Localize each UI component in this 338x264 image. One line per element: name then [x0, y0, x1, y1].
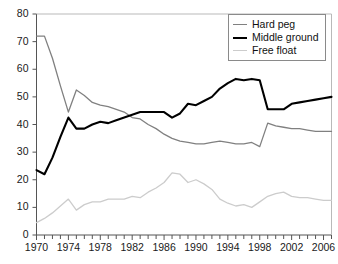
- y-axis-tick-label: 40: [3, 119, 29, 129]
- y-axis-tick-label: 0: [3, 229, 29, 239]
- y-axis-tick-label: 30: [3, 146, 29, 156]
- legend-item: Middle ground: [233, 31, 319, 44]
- legend-item-label: Hard peg: [252, 19, 295, 30]
- y-axis-tick-label: 60: [3, 63, 29, 73]
- legend-line-swatch-icon: [233, 37, 247, 39]
- series-group: [37, 36, 332, 222]
- y-axis-tick-label: 10: [3, 201, 29, 211]
- line-chart: 80706050403020100 1970197419781982198619…: [0, 0, 338, 264]
- y-axis-tick-label: 50: [3, 91, 29, 101]
- legend-line-swatch-icon: [233, 50, 247, 51]
- y-axis-tick-label: 20: [3, 174, 29, 184]
- legend-item-label: Middle ground: [252, 32, 319, 43]
- chart-legend: Hard pegMiddle groundFree float: [228, 14, 326, 61]
- legend-item: Free float: [233, 44, 319, 57]
- legend-line-swatch-icon: [233, 24, 247, 25]
- y-axis-tick-label: 80: [3, 8, 29, 18]
- y-axis-tick-label: 70: [3, 36, 29, 46]
- legend-item: Hard peg: [233, 18, 319, 31]
- legend-item-label: Free float: [252, 45, 296, 56]
- series-line-free-float: [37, 173, 332, 223]
- x-axis-tick-label: 2006: [304, 242, 338, 252]
